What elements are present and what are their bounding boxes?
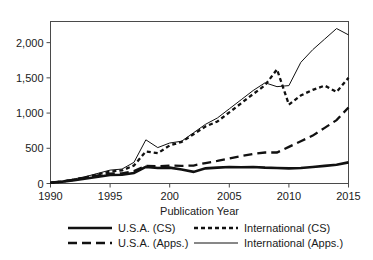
x-axis-ticks: 19901995200200520102015 <box>38 184 360 202</box>
series-group <box>51 29 349 183</box>
x-tick-label: 2010 <box>277 190 301 202</box>
x-tick-label: 1995 <box>98 190 122 202</box>
x-tick-label: 2005 <box>217 190 241 202</box>
figure-container: 05001,0001,5002,000 19901995200200520102… <box>0 0 373 260</box>
series-line <box>51 69 349 182</box>
y-tick-label: 1,000 <box>16 107 44 119</box>
plot-frame <box>51 22 349 184</box>
y-tick-label: 2,000 <box>16 37 44 49</box>
x-tick-label: 200 <box>161 190 179 202</box>
x-axis-title: Publication Year <box>160 205 239 217</box>
x-tick-label: 2015 <box>336 190 360 202</box>
series-line <box>51 162 349 182</box>
series-line <box>51 29 349 183</box>
y-tick-label: 1,500 <box>16 72 44 84</box>
line-chart: 05001,0001,5002,000 19901995200200520102… <box>0 0 373 260</box>
y-tick-label: 0 <box>37 178 43 190</box>
x-tick-label: 1990 <box>38 190 62 202</box>
legend-label: U.S.A. (CS) <box>118 222 175 234</box>
legend-label: International (Apps.) <box>244 237 343 249</box>
y-axis-ticks: 05001,0001,5002,000 <box>16 37 51 190</box>
legend-label: International (CS) <box>244 222 330 234</box>
y-tick-label: 500 <box>25 142 43 154</box>
legend-label: U.S.A. (Apps.) <box>118 237 188 249</box>
chart-legend: U.S.A. (CS)International (CS)U.S.A. (App… <box>68 222 343 249</box>
